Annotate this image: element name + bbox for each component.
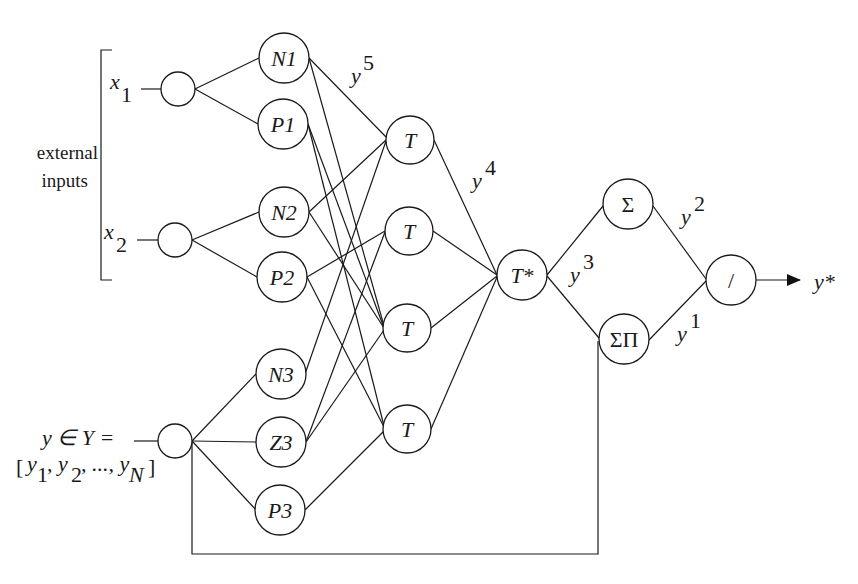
svg-text:T: T [401, 417, 415, 442]
svg-text:3: 3 [583, 249, 594, 274]
svg-text:ΣΠ: ΣΠ [610, 327, 639, 352]
svg-text:1: 1 [690, 308, 701, 333]
svg-text:y: y [349, 63, 361, 88]
edge-n3-t1 [305, 141, 386, 374]
svg-text:N3: N3 [267, 362, 294, 387]
edge-in2-p2 [192, 240, 257, 277]
svg-text:x: x [109, 69, 120, 94]
node-divide: / [706, 255, 756, 305]
svg-text:N2: N2 [270, 200, 297, 225]
edge-t2-tstar [433, 231, 497, 275]
y-vector-label: [ y 1 , y 2 , ..., y N ] [16, 451, 155, 487]
svg-text:y: y [568, 262, 580, 287]
node-z3: Z3 [256, 417, 306, 467]
edge-z3-t3 [306, 330, 384, 442]
edge-p2-t4 [307, 277, 384, 427]
node-n3: N3 [256, 349, 306, 399]
node-p1: P1 [258, 99, 308, 149]
node-t4: T [383, 405, 431, 453]
svg-text:2: 2 [694, 191, 705, 216]
input-node-x2 [158, 223, 192, 257]
x2-label: x 2 [103, 219, 127, 257]
node-sigma: Σ [603, 179, 653, 229]
svg-text:2: 2 [116, 232, 127, 257]
svg-text:P2: P2 [269, 265, 294, 290]
edge-in1-p1 [195, 89, 258, 124]
edge-p1-t3 [308, 124, 384, 328]
edge-n2-t3 [309, 212, 384, 328]
edge-p1-t4 [308, 124, 384, 426]
svg-text:y: y [470, 168, 482, 193]
svg-text:1: 1 [121, 82, 132, 107]
external-label-line2: inputs [42, 170, 88, 191]
node-p3: P3 [255, 485, 305, 535]
svg-text:4: 4 [485, 155, 496, 180]
node-tstar: T* [497, 250, 547, 300]
node-t1: T [386, 116, 434, 164]
network-diagram: N1 P1 N2 P2 N3 Z3 P3 T T T T T* [0, 0, 858, 584]
node-n1: N1 [259, 33, 309, 83]
svg-text:N1: N1 [270, 46, 297, 71]
edge-in3-p3 [192, 441, 256, 510]
svg-text:y: y [675, 321, 687, 346]
edge-t3-tstar [431, 276, 497, 328]
svg-text:N: N [128, 462, 145, 487]
edge-in2-n2 [192, 212, 259, 240]
svg-text:]: ] [148, 454, 155, 479]
edge-n1-t3 [309, 58, 384, 326]
svg-text:y: y [679, 204, 691, 229]
svg-text:T: T [404, 128, 418, 153]
x1-label: x 1 [109, 69, 132, 107]
svg-text:T: T [403, 219, 417, 244]
node-sigmapi: ΣΠ [599, 314, 649, 364]
y3-label: y 3 [568, 249, 594, 287]
edge-t4-tstar [431, 277, 497, 429]
edge-in1-n1 [195, 58, 259, 89]
y-set-label: y ∈ Y = [40, 425, 114, 450]
edge-in3-n3 [192, 374, 256, 441]
svg-text:Z3: Z3 [269, 430, 292, 455]
y1-label: y 1 [675, 308, 701, 346]
input-node-y [158, 424, 192, 458]
svg-text:Σ: Σ [622, 192, 635, 217]
node-t2: T [385, 207, 433, 255]
svg-text:T*: T* [510, 263, 533, 288]
node-t3: T [383, 304, 431, 352]
external-label-line1: external [37, 142, 98, 163]
y4-label: y 4 [470, 155, 496, 193]
edge-p3-t4 [305, 431, 384, 510]
svg-text:y: y [25, 451, 37, 476]
y5-label: y 5 [349, 50, 374, 88]
output-label: y* [812, 269, 835, 294]
svg-text:x: x [103, 219, 114, 244]
svg-text:/: / [728, 268, 735, 293]
svg-text:T: T [401, 316, 415, 341]
svg-text:[: [ [16, 454, 23, 479]
svg-text:, y: , y [47, 451, 68, 476]
svg-text:P3: P3 [267, 498, 292, 523]
svg-text:5: 5 [363, 50, 374, 75]
node-n2: N2 [259, 187, 309, 237]
edge-in3-z3 [192, 441, 256, 442]
svg-text:P1: P1 [270, 112, 295, 137]
svg-text:, ..., y: , ..., y [81, 451, 130, 476]
input-node-x1 [161, 72, 195, 106]
edge-sigma-divide [653, 206, 706, 279]
y2-label: y 2 [679, 191, 705, 229]
node-p2: P2 [257, 252, 307, 302]
